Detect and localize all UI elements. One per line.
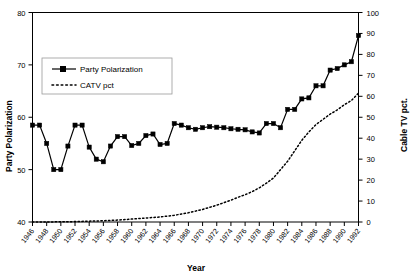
y-tick-label: 60 [17, 113, 25, 122]
party-polarization-point [80, 123, 84, 127]
party-polarization-point [250, 130, 254, 134]
party-polarization-point [186, 126, 190, 130]
y2-tick-label: 50 [367, 113, 375, 122]
party-polarization-point [236, 127, 240, 131]
x-tick-label: 1966 [161, 227, 178, 245]
party-polarization-point [144, 133, 148, 137]
catv-pct-line [33, 93, 359, 222]
x-tick-label: 1962 [132, 227, 149, 245]
x-tick-label: 1956 [90, 227, 107, 245]
x-tick-label: 1974 [217, 227, 234, 245]
axis-titles: Party Polarization Cable TV pct. Year [4, 98, 409, 273]
party-polarization-point [37, 123, 41, 127]
x-tick-label: 1980 [260, 227, 277, 245]
legend-marker-square-party-polarization [60, 66, 66, 72]
party-polarization-point [342, 63, 346, 67]
y-tick-label: 40 [17, 218, 25, 227]
party-polarization-point [264, 121, 268, 125]
y2-tick-label: 70 [367, 71, 375, 80]
party-polarization-point [151, 132, 155, 136]
x-tick-label: 1952 [62, 227, 79, 245]
party-polarization-point [356, 33, 360, 37]
party-polarization-point [200, 126, 204, 130]
y2-tick-label: 20 [367, 176, 375, 185]
x-tick-label: 1950 [47, 227, 64, 245]
y-axis-title: Party Polarization [4, 100, 14, 172]
y2-tick-label: 80 [367, 50, 375, 59]
y-tick-label: 80 [17, 9, 25, 18]
party-polarization-point [208, 125, 212, 129]
party-polarization-point [30, 123, 34, 127]
party-polarization-point [349, 60, 353, 64]
x-tick-label: 1948 [33, 227, 50, 245]
legend-label-party-polarization: Party Polarization [80, 65, 143, 74]
x-tick-label: 1990 [331, 227, 348, 245]
party-polarization-point [293, 107, 297, 111]
x-tick-label: 1988 [317, 227, 334, 245]
party-polarization-point [271, 121, 275, 125]
y2-tick-label: 30 [367, 155, 375, 164]
right-axis-ticks: 0102030405060708090100 [359, 9, 380, 228]
x-tick-label: 1992 [345, 227, 362, 245]
party-polarization-point [300, 97, 304, 101]
party-polarization-point [165, 141, 169, 145]
x-axis-ticks: 1946194819501952195419561958196019621964… [19, 222, 362, 245]
y-tick-label: 70 [17, 61, 25, 70]
x-tick-label: 1958 [104, 227, 121, 245]
party-polarization-point [257, 131, 261, 135]
party-polarization-point [229, 127, 233, 131]
party-polarization-point [115, 135, 119, 139]
plot-area-border [33, 13, 359, 223]
y2-tick-label: 90 [367, 29, 375, 38]
x-tick-label: 1976 [232, 227, 249, 245]
x-tick-label: 1970 [189, 227, 206, 245]
y2-tick-label: 60 [367, 92, 375, 101]
x-tick-label: 1946 [19, 227, 36, 245]
x-tick-label: 1954 [76, 227, 93, 245]
party-polarization-point [307, 96, 311, 100]
party-polarization-point [94, 157, 98, 161]
chart-container: 4050607080 0102030405060708090100 194619… [0, 0, 417, 275]
y2-tick-label: 100 [367, 9, 380, 18]
x-tick-label: 1964 [147, 227, 164, 245]
party-polarization-point [314, 84, 318, 88]
party-polarization-point [278, 126, 282, 130]
y-tick-label: 50 [17, 166, 25, 175]
x-tick-label: 1978 [246, 227, 263, 245]
party-polarization-point [172, 121, 176, 125]
left-axis-ticks: 4050607080 [17, 9, 32, 228]
party-polarization-point [193, 127, 197, 131]
party-polarization-point [215, 125, 219, 129]
party-polarization-point [66, 144, 70, 148]
series-party-polarization [30, 33, 360, 171]
x-tick-label: 1982 [274, 227, 291, 245]
y2-axis-title: Cable TV pct. [399, 98, 409, 152]
party-polarization-point [130, 143, 134, 147]
party-polarization-point [87, 145, 91, 149]
x-tick-label: 1984 [288, 227, 305, 245]
party-polarization-point [52, 168, 56, 172]
party-polarization-point [243, 128, 247, 132]
party-polarization-point [123, 135, 127, 139]
chart-svg: 4050607080 0102030405060708090100 194619… [0, 0, 417, 275]
party-polarization-point [158, 142, 162, 146]
series-catv-pct [33, 93, 359, 222]
party-polarization-point [179, 123, 183, 127]
party-polarization-point [108, 144, 112, 148]
y2-tick-label: 10 [367, 197, 375, 206]
party-polarization-point [328, 68, 332, 72]
x-tick-label: 1960 [118, 227, 135, 245]
party-polarization-point [222, 126, 226, 130]
party-polarization-point [321, 84, 325, 88]
party-polarization-point [101, 160, 105, 164]
y2-tick-label: 40 [367, 134, 375, 143]
x-tick-label: 1972 [203, 227, 220, 245]
party-polarization-line [33, 36, 359, 170]
party-polarization-point [137, 141, 141, 145]
y2-tick-label: 0 [367, 218, 371, 227]
legend-label-catv-pct: CATV pct [80, 81, 114, 90]
x-axis-title: Year [187, 263, 206, 273]
party-polarization-point [45, 141, 49, 145]
x-tick-label: 1986 [302, 227, 319, 245]
x-tick-label: 1968 [175, 227, 192, 245]
